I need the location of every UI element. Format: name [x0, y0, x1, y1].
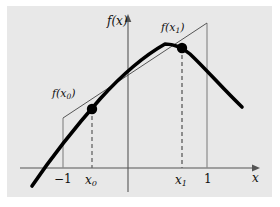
- tick-label-x0-prefix: x: [85, 173, 92, 187]
- figure-canvas: [0, 0, 280, 207]
- marker-point-x1: [177, 43, 187, 53]
- figure-root: f(x) x f(x0) f(x1) −1 x0 x1 1: [0, 0, 280, 207]
- tick-label-x0-subscript: 0: [92, 178, 97, 188]
- tick-label-minus-one: −1: [54, 173, 72, 185]
- secant-line: [63, 23, 207, 118]
- y-axis: [125, 14, 132, 192]
- tick-label-x1-prefix: x: [175, 173, 182, 187]
- point-label-fx1-suffix: ): [180, 21, 184, 34]
- y-axis-label: f(x): [107, 15, 128, 27]
- tick-label-x1: x1: [175, 174, 187, 187]
- marker-point-x0: [87, 104, 97, 114]
- point-label-fx0-suffix: ): [71, 87, 75, 100]
- tick-label-one: 1: [204, 173, 212, 185]
- point-label-fx0-prefix: f(x: [52, 87, 67, 100]
- tick-label-x0: x0: [85, 174, 97, 187]
- point-label-fx1-prefix: f(x: [161, 21, 176, 34]
- tick-label-x1-subscript: 1: [182, 178, 187, 188]
- x-axis-label: x: [252, 172, 259, 184]
- x-axis: [20, 165, 260, 172]
- point-label-fx1: f(x1): [161, 22, 185, 35]
- point-label-fx0: f(x0): [52, 88, 76, 101]
